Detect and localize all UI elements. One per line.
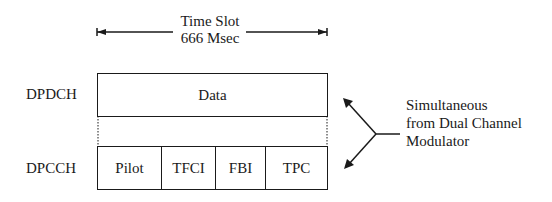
- time-slot-duration: 666 Msec: [176, 30, 244, 47]
- time-slot-label: Time Slot 666 Msec: [176, 13, 244, 47]
- dpdch-frame: Data: [97, 73, 328, 117]
- dpcch-label: DPCCH: [26, 160, 76, 177]
- dpdch-label: DPDCH: [26, 86, 77, 103]
- dpcch-frame: Pilot TFCI FBI TPC: [97, 146, 328, 190]
- time-slot-label-line1: Time Slot: [176, 13, 244, 30]
- field-pilot: Pilot: [98, 147, 162, 189]
- field-tpc: TPC: [266, 147, 327, 189]
- modulator-arrows: [343, 98, 400, 169]
- annotation-line1: Simultaneous: [406, 96, 522, 114]
- annotation-line3: Modulator: [406, 132, 522, 150]
- modulator-annotation: Simultaneous from Dual Channel Modulator: [406, 96, 522, 150]
- dotted-connectors: [98, 116, 327, 146]
- annotation-line2: from Dual Channel: [406, 114, 522, 132]
- field-data: Data: [98, 74, 327, 116]
- field-fbi: FBI: [216, 147, 266, 189]
- field-tfci: TFCI: [162, 147, 216, 189]
